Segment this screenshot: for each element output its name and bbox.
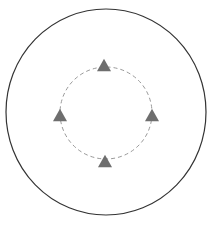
- triangle-marker-right-icon: [145, 109, 159, 122]
- triangle-marker-top-icon: [97, 59, 111, 72]
- orbit-diagram: [0, 0, 208, 228]
- triangle-marker-bottom-icon: [98, 155, 112, 168]
- triangle-markers: [53, 59, 159, 168]
- triangle-marker-left-icon: [53, 109, 67, 122]
- outer-circle: [6, 9, 206, 215]
- inner-dashed-circle: [60, 67, 152, 159]
